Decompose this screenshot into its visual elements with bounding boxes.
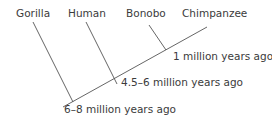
- species-label-human: Human: [68, 7, 106, 19]
- divergence-label-4-5-6mya: 4.5–6 million years ago: [121, 76, 243, 88]
- species-label-chimpanzee: Chimpanzee: [182, 7, 247, 19]
- species-label-bonobo: Bonobo: [126, 7, 166, 19]
- species-label-gorilla: Gorilla: [16, 7, 50, 19]
- divergence-label-1mya: 1 million years ago: [173, 50, 272, 62]
- gorilla-branch-line: [33, 22, 73, 102]
- bonobo-branch-line: [149, 25, 166, 50]
- divergence-label-6-8mya: 6–8 million years ago: [64, 103, 176, 115]
- human-branch-line: [86, 22, 117, 84]
- main-trunk-line: [63, 27, 207, 107]
